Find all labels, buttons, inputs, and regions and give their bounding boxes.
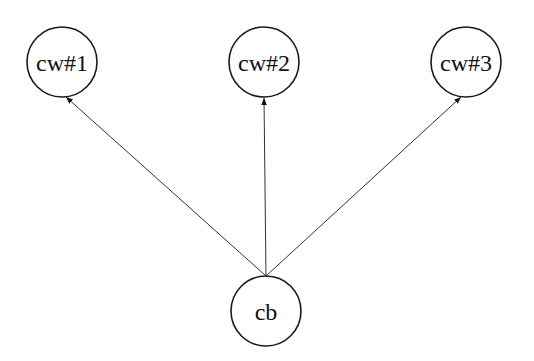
edges: [66, 97, 461, 276]
edge-cb-to-cw1: [66, 97, 266, 276]
node-label: cw#3: [440, 50, 492, 76]
node-label: cw#1: [36, 50, 88, 76]
node-label: cb: [255, 299, 278, 325]
node-cw2: cw#2: [229, 27, 299, 97]
node-cw1: cw#1: [27, 27, 97, 97]
node-cw3: cw#3: [431, 27, 501, 97]
diagram-canvas: cw#1 cw#2 cw#3 cb: [0, 0, 534, 361]
edge-cb-to-cw2: [264, 98, 266, 276]
node-cb: cb: [231, 276, 301, 346]
node-label: cw#2: [238, 50, 290, 76]
edge-cb-to-cw3: [266, 97, 461, 276]
